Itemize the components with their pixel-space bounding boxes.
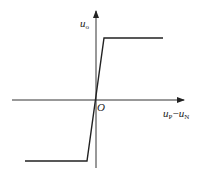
transfer-characteristic-plot [0, 0, 203, 178]
origin-label: O [97, 102, 105, 113]
x-axis-label: uP−uN [163, 108, 189, 121]
y-axis-label: uo [80, 18, 89, 31]
